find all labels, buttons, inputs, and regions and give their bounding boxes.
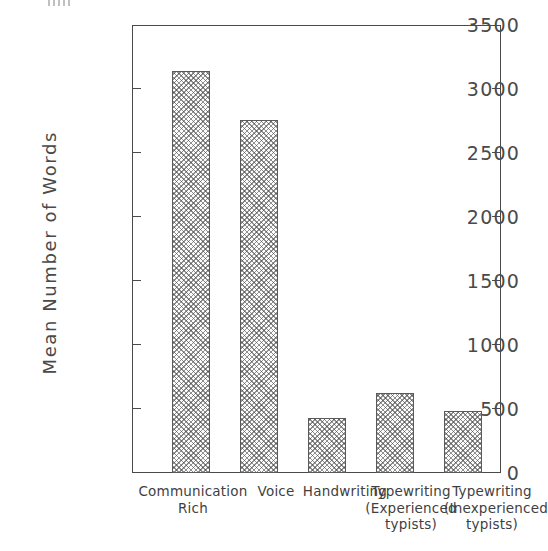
y-axis-title: Mean Number of Words [39,145,60,375]
y-tick-label: 3000 [394,78,520,100]
bar [308,418,346,473]
y-tick-mark-left [132,408,141,409]
bar [172,71,210,473]
y-tick-mark-left [132,280,141,281]
y-tick-mark-left [132,88,141,89]
bar [376,393,414,473]
x-axis-category-label: Communication Rich [138,483,248,516]
y-tick-label: 3500 [394,14,520,36]
x-axis-category-label: Typewriting (Inexperienced typists) [444,483,540,533]
y-tick-mark-left [132,344,141,345]
y-tick-label: 2000 [394,206,520,228]
bar [240,120,278,473]
y-tick-label: 2500 [394,142,520,164]
x-axis-category-label: Voice [248,483,304,500]
scan-artifact [48,0,70,6]
x-axis-labels: Communication RichVoiceHandwritingTypewr… [0,483,520,551]
y-tick-mark-left [132,152,141,153]
y-tick-label: 1500 [394,270,520,292]
y-tick-mark-left [132,216,141,217]
y-tick-label: 1000 [394,334,520,356]
bar [444,411,482,473]
